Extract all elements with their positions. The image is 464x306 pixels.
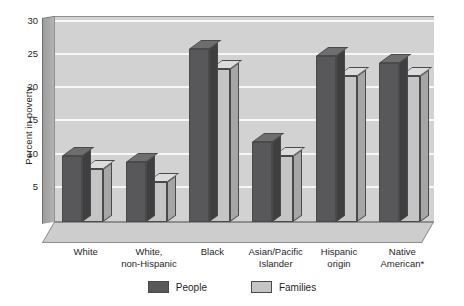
bar-group xyxy=(189,16,230,222)
y-tick-label: 25 xyxy=(14,48,38,59)
x-category-label-line: American* xyxy=(357,258,448,270)
bar-group xyxy=(62,16,103,222)
bar-side-face xyxy=(336,49,345,222)
x-category-label: NativeAmerican* xyxy=(357,246,448,269)
poverty-bar-chart: Percent in poverty 51015202530 WhiteWhit… xyxy=(0,0,464,306)
x-category-label-line: Native xyxy=(357,246,448,258)
bar-side-face xyxy=(420,69,429,222)
bar-group xyxy=(379,16,420,222)
bar-people xyxy=(126,162,146,222)
y-tick-label: 20 xyxy=(14,81,38,92)
x-axis-category-labels: WhiteWhite,non-HispanicBlackAsian/Pacifi… xyxy=(42,246,446,278)
bar-people xyxy=(189,49,209,222)
legend-item-people[interactable]: People xyxy=(148,281,207,293)
bar-front-face xyxy=(62,156,82,222)
bar-side-face xyxy=(146,156,155,222)
legend-label: Families xyxy=(279,282,316,293)
bar-people xyxy=(379,63,399,222)
legend-swatch-icon xyxy=(148,281,169,293)
plot-left-wall xyxy=(42,16,54,224)
legend-swatch-icon xyxy=(251,281,272,293)
legend-item-families[interactable]: Families xyxy=(251,281,316,293)
bar-people xyxy=(252,142,272,222)
bar-side-face xyxy=(357,69,366,222)
bar-front-face xyxy=(189,49,209,222)
plot-floor xyxy=(42,222,434,243)
y-axis-tick-labels: 51015202530 xyxy=(8,0,38,306)
y-tick-label: 5 xyxy=(14,181,38,192)
bar-group xyxy=(126,16,167,222)
plot-area xyxy=(42,16,446,242)
bar-people xyxy=(62,156,82,222)
y-tick-label: 15 xyxy=(14,114,38,125)
bar-side-face xyxy=(399,56,408,222)
bar-side-face xyxy=(103,162,112,222)
y-tick-label: 30 xyxy=(14,15,38,26)
bar-front-face xyxy=(252,142,272,222)
chart-legend: PeopleFamilies xyxy=(0,281,464,293)
bar-people xyxy=(316,56,336,222)
bars-container xyxy=(54,16,434,222)
bar-group xyxy=(252,16,293,222)
x-category-label-line: non-Hispanic xyxy=(103,258,194,270)
bar-group xyxy=(316,16,357,222)
bar-side-face xyxy=(293,149,302,222)
legend-label: People xyxy=(176,282,207,293)
y-tick-label: 10 xyxy=(14,148,38,159)
bar-front-face xyxy=(379,63,399,222)
bar-side-face xyxy=(167,176,176,222)
bar-front-face xyxy=(126,162,146,222)
bar-side-face xyxy=(82,149,91,222)
bar-side-face xyxy=(230,63,239,222)
bar-side-face xyxy=(272,136,281,222)
bar-front-face xyxy=(316,56,336,222)
bar-side-face xyxy=(209,43,218,222)
